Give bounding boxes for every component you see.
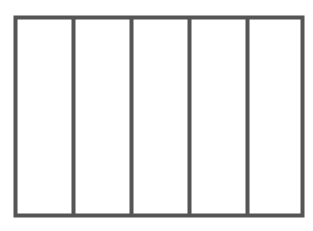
outer-rectangle — [16, 18, 303, 216]
divided-rectangle-diagram — [0, 0, 313, 231]
